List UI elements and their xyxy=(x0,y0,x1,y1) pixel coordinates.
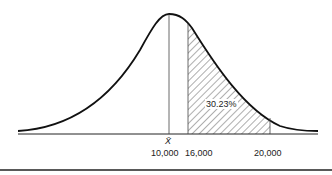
area-percentage-label: 30.23% xyxy=(205,99,238,109)
shaded-area xyxy=(18,14,318,134)
tick-lower: 16,000 xyxy=(185,148,213,158)
tick-upper: 20,000 xyxy=(254,148,282,158)
bell-curve xyxy=(18,14,318,131)
tick-mean: 10,000 xyxy=(151,148,179,158)
mean-symbol: X̄ xyxy=(165,136,171,146)
